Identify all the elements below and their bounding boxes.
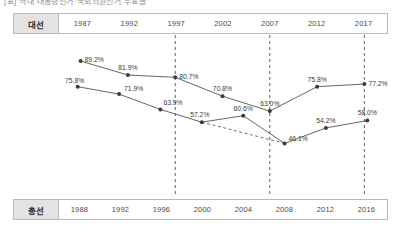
year-tick: 2002 [200,19,247,28]
data-label: 71.9% [124,85,143,92]
data-point [173,75,177,79]
presidential-axis-row: 대선 1987 1992 1997 2002 2007 2012 2017 [13,13,388,34]
data-label: 75.8% [307,76,326,83]
caption-strip: [표] 역대 대통령선거·국회의원선거 투표율 [0,0,401,11]
year-tick: 2000 [182,205,223,214]
data-point [362,82,366,86]
general-axis-row: 총선 1988 1992 1996 2000 2004 2008 2012 20… [13,199,388,220]
year-tick: 1988 [59,205,100,214]
data-point [158,107,162,111]
data-point [126,73,130,77]
data-label: 58.0% [358,109,377,116]
data-point [117,92,121,96]
series-layer [76,59,370,145]
data-label: 60.6% [234,105,253,112]
year-tick: 2012 [293,19,340,28]
chart-plot: 89.2%81.9%80.7%70.8%63.0%75.8%77.2%75.8%… [0,0,401,229]
chart-container: [표] 역대 대통령선거·국회의원선거 투표율 대선 1987 1992 199… [0,0,401,229]
year-tick: 1987 [59,19,106,28]
data-point [324,126,328,130]
data-label: 81.9% [118,64,137,71]
data-label: 46.1% [289,135,308,142]
data-label: 77.2% [368,80,387,87]
trend-segment [202,122,285,143]
year-tick: 1992 [100,205,141,214]
year-tick: 1996 [141,205,182,214]
data-point [315,85,319,89]
year-tick: 2004 [223,205,264,214]
year-tick: 1992 [106,19,153,28]
data-label: 89.2% [85,56,104,63]
year-tick: 2007 [246,19,293,28]
data-point [283,141,287,145]
data-point [221,94,225,98]
year-tick: 2017 [340,19,387,28]
data-point [79,59,83,63]
data-point [241,114,245,118]
data-point [268,109,272,113]
data-label: 63.9% [163,99,182,106]
data-label: 75.8% [65,77,84,84]
data-label: 57.2% [190,111,209,118]
year-tick: 2012 [305,205,346,214]
year-tick: 2008 [264,205,305,214]
series-line-대선 [81,61,365,111]
data-point [76,85,80,89]
general-axis-label: 총선 [13,199,59,220]
guide-line-layer [175,35,364,196]
data-point [200,120,204,124]
data-label: 70.8% [213,85,232,92]
data-label: 54.2% [316,117,335,124]
data-point [365,119,369,123]
presidential-year-list: 1987 1992 1997 2002 2007 2012 2017 [59,13,388,34]
data-label-layer: 89.2%81.9%80.7%70.8%63.0%75.8%77.2%75.8%… [65,56,388,142]
year-tick: 2016 [346,205,387,214]
presidential-axis-label: 대선 [13,13,59,34]
year-tick: 1997 [153,19,200,28]
data-label: 63.0% [260,100,279,107]
data-label: 80.7% [179,73,198,80]
caption-text: [표] 역대 대통령선거·국회의원선거 투표율 [4,0,146,6]
series-line-총선 [78,87,368,144]
general-year-list: 1988 1992 1996 2000 2004 2008 2012 2016 [59,199,388,220]
